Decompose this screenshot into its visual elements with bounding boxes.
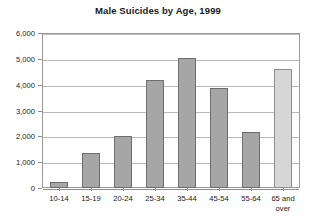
x-slot: 45-54 (203, 188, 235, 221)
y-tick-label: 0 (31, 184, 35, 193)
y-tick-label: 3,000 (16, 106, 35, 115)
y-tick-label: 2,000 (16, 132, 35, 141)
bar[interactable] (114, 136, 132, 188)
bar-slot (171, 33, 203, 188)
x-slot: 65 and over (267, 188, 299, 221)
x-tick-mark (59, 188, 60, 191)
bar[interactable] (178, 58, 196, 188)
bar-chart: Male Suicides by Age, 1999 6,0005,0004,0… (0, 0, 316, 221)
x-tick-mark (283, 188, 284, 191)
bar[interactable] (146, 80, 164, 189)
bar-slot (75, 33, 107, 188)
x-slot: 15-19 (75, 188, 107, 221)
x-slot: 10-14 (43, 188, 75, 221)
bar[interactable] (82, 153, 100, 188)
x-slot: 20-24 (107, 188, 139, 221)
bar-slot (235, 33, 267, 188)
bar-slot (139, 33, 171, 188)
y-tick-label: 4,000 (16, 80, 35, 89)
y-tick-label: 5,000 (16, 54, 35, 63)
x-tick-mark (123, 188, 124, 191)
x-slot: 25-34 (139, 188, 171, 221)
x-tick-label: 65 and over (263, 194, 303, 213)
bar[interactable] (242, 132, 260, 188)
bar-slot (43, 33, 75, 188)
x-tick-mark (219, 188, 220, 191)
bar-slot (203, 33, 235, 188)
bars-layer (42, 33, 300, 188)
x-tick-mark (155, 188, 156, 191)
bar[interactable] (274, 69, 292, 188)
x-axis: 10-1415-1920-2425-3435-4445-5455-6465 an… (42, 188, 300, 221)
bar-slot (107, 33, 139, 188)
x-tick-mark (251, 188, 252, 191)
bar[interactable] (210, 88, 228, 188)
bar-slot (267, 33, 299, 188)
chart-title: Male Suicides by Age, 1999 (0, 5, 316, 16)
y-tick-label: 1,000 (16, 158, 35, 167)
x-tick-mark (91, 188, 92, 191)
x-slot: 35-44 (171, 188, 203, 221)
x-tick-mark (187, 188, 188, 191)
y-axis: 6,0005,0004,0003,0002,0001,0000 (0, 33, 42, 188)
y-tick-label: 6,000 (16, 29, 35, 38)
